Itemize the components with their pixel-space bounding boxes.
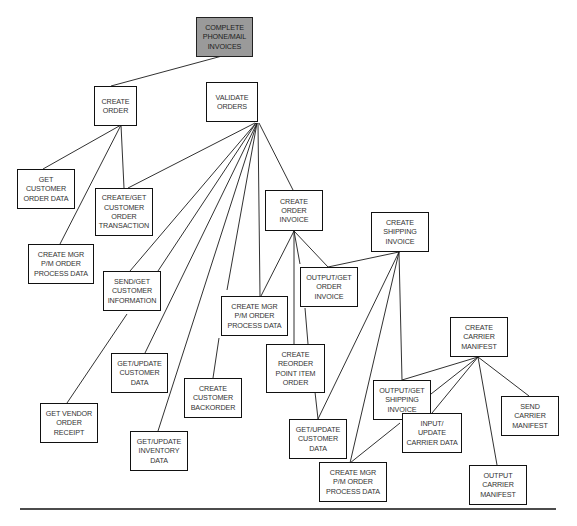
node-create-customer-backorder: CREATE CUSTOMER BACKORDER	[184, 378, 242, 418]
edge-validate-get-vendor-order-receipt	[158, 123, 256, 271]
edge-carrier-manifest-input-update	[432, 357, 478, 413]
edge-carrier-manifest-output-get-shipping-right	[431, 357, 478, 394]
node-output-carrier-manifest: OUTPUT CARRIER MANIFEST	[469, 465, 527, 505]
edge-carrier-manifest-output-get-shipping-invoice	[402, 357, 478, 380]
node-create-reorder-point-item-order: CREATE REORDER POINT ITEM ORDER	[266, 344, 325, 393]
edge-output-get-order-invoice-to-reorder	[305, 308, 308, 344]
edge-shipping-invoice-output-get-shipping-invoice	[399, 252, 402, 380]
node-create-order-invoice: CREATE ORDER INVOICE	[265, 190, 323, 231]
node-validate-orders: VALIDATE ORDERS	[206, 82, 258, 122]
node-create-mgr-left: CREATE MGR P/M ORDER PROCESS DATA	[28, 244, 94, 284]
edge-validate-create-mgr-middle	[258, 123, 260, 296]
node-create-order: CREATE ORDER	[94, 86, 137, 126]
node-get-customer-order-data: GET CUSTOMER ORDER DATA	[17, 169, 75, 209]
edge-order-invoice-output-get-order-invoice	[294, 231, 328, 267]
node-input-update-carrier-data: INPUT/ UPDATE CARRIER DATA	[402, 413, 462, 453]
node-output-get-order-invoice: OUTPUT/GET ORDER INVOICE	[300, 267, 358, 307]
edge-order-invoice-create-mgr-middle	[261, 231, 294, 296]
edge-carrier-manifest-send-carrier-manifest	[478, 357, 529, 396]
edge-validate-create-customer-backorder-a	[227, 123, 257, 290]
node-create-shipping-invoice: CREATE SHIPPING INVOICE	[371, 212, 429, 252]
edge-validate-create-order-invoice	[259, 123, 293, 190]
node-create-mgr-middle: CREATE MGR P/M ORDER PROCESS DATA	[221, 296, 288, 336]
node-create-get-customer-order-transaction: CREATE/GET CUSTOMER ORDER TRANSACTION	[95, 188, 153, 236]
node-get-vendor-order-receipt: GET VENDOR ORDER RECEIPT	[40, 403, 98, 443]
edge-validate-create-get-transaction	[128, 123, 255, 188]
edge-mgr-middle-create-customer-backorder	[213, 338, 219, 378]
node-send-get-customer-information: SEND/GET CUSTOMER INFORMATION	[103, 271, 161, 311]
edge-shipping-invoice-output-get-order-invoice	[328, 252, 399, 267]
edge-create-order-create-get-transaction	[121, 125, 124, 188]
edge-reorder-to-get-update-customer-right	[315, 392, 318, 419]
hierarchy-diagram: COMPLETE PHONE/MAIL INVOICES CREATE ORDE…	[0, 0, 577, 526]
node-create-mgr-right: CREATE MGR P/M ORDER PROCESS DATA	[319, 462, 387, 502]
edge-carrier-manifest-output-carrier-manifest	[478, 357, 497, 465]
node-complete-phone-mail-invoices: COMPLETE PHONE/MAIL INVOICES	[196, 17, 253, 57]
node-get-update-customer-data-right: GET/UPDATE CUSTOMER DATA	[289, 419, 347, 459]
node-get-update-inventory-data: GET/UPDATE INVENTORY DATA	[130, 431, 188, 471]
node-get-update-customer-data-left: GET/UPDATE CUSTOMER DATA	[111, 353, 168, 393]
node-send-carrier-manifest: SEND CARRIER MANIFEST	[501, 396, 559, 436]
node-create-carrier-manifest: CREATE CARRIER MANIFEST	[450, 317, 508, 357]
